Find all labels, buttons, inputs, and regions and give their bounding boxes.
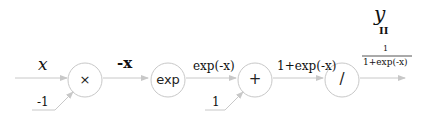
fraction-denominator: 1+exp(-x): [363, 58, 408, 67]
add-node: +: [245, 72, 265, 87]
divide-node: /: [332, 72, 352, 87]
exp-out-label: exp(-x): [193, 60, 235, 72]
exp-node: exp: [153, 73, 183, 86]
add-out-label: 1+exp(-x): [277, 60, 336, 72]
fraction-numerator: 1: [383, 45, 388, 53]
multiply-node: ×: [75, 73, 95, 86]
equals-sign: II: [379, 26, 388, 36]
output-y-label: y: [374, 4, 385, 24]
sigmoid-graph: × exp + / x -x exp(-x) 1+exp(-x) -1 1 y …: [0, 0, 425, 117]
const-1-label: 1: [212, 96, 220, 108]
input-x-label: x: [38, 56, 48, 73]
neg-x-label: -x: [117, 56, 132, 71]
const-neg1-label: -1: [37, 96, 49, 108]
